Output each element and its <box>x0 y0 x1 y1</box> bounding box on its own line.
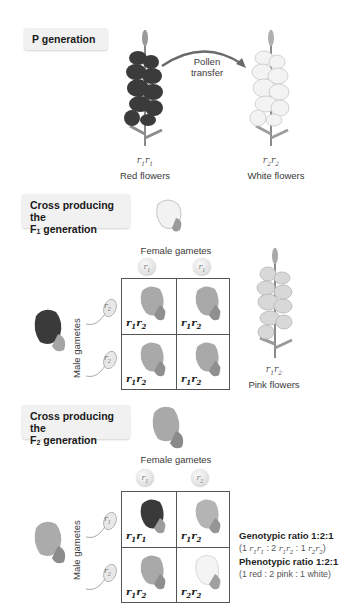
red-parent-genotype: r1r1 <box>125 155 165 167</box>
f2-header-line2: F2 generation <box>30 434 122 449</box>
f2-cell-3-genotype: r1r2 <box>126 586 146 600</box>
f2-cell-2: r1r2 <box>177 492 230 547</box>
f2-header-line1: Cross producing the <box>30 410 122 434</box>
f1-punnett-square: r1r2 r1r2 r1r2 r1r2 <box>121 278 230 390</box>
f1-male-gamete-2-allele: r2 <box>104 353 111 364</box>
f2-male-gamete-sperm-1-icon <box>84 511 118 541</box>
pink-flower-head-male-icon <box>30 518 70 566</box>
genotypic-ratio-detail: (1 r1r1 : 2 r1r2 : 1 r2r2) <box>239 543 326 555</box>
f1-cell-3-genotype: r1r2 <box>126 373 146 387</box>
f2-cell-4-genotype: r2r2 <box>181 586 201 600</box>
f2-male-gamete-1-allele: r1 <box>104 514 111 525</box>
f1-female-gametes-label: Female gametes <box>126 245 226 256</box>
f1-female-gamete-1: r1 <box>138 258 156 276</box>
red-flowers-label: Red flowers <box>110 170 180 181</box>
p-generation-header-text: P generation <box>32 33 95 45</box>
f2-cell-2-genotype: r1r2 <box>181 530 201 544</box>
genotypic-ratio-title: Genotypic ratio 1:2:1 <box>239 530 334 541</box>
f1-cell-4: r1r2 <box>177 335 230 390</box>
f2-cell-1-genotype: r1r1 <box>126 530 146 544</box>
f2-male-gametes-label: Male gametes <box>71 520 82 580</box>
phenotypic-ratio-title: Phenotypic ratio 1:2:1 <box>239 556 338 567</box>
f2-punnett-square: r1r1 r1r2 r1r2 r2r2 <box>121 491 230 603</box>
f1-male-gamete-sperm-2-icon <box>84 350 118 380</box>
f1-male-gamete-sperm-1-icon <box>84 298 118 328</box>
f2-cross-header: Cross producing the F2 generation <box>22 405 130 439</box>
f1-cross-header: Cross producing the F1 generation <box>22 194 130 228</box>
pink-flower-head-female-icon <box>148 403 186 451</box>
f2-cell-1: r1r1 <box>122 492 176 547</box>
white-flower-head-icon <box>152 196 186 236</box>
f1-female-gamete-2: r1 <box>193 258 211 276</box>
pollen-transfer-line2: transfer <box>186 67 228 78</box>
f2-male-gamete-2-allele: r2 <box>104 566 111 577</box>
f1-cell-1: r1r2 <box>122 279 176 334</box>
f2-cell-4: r2r2 <box>177 548 230 603</box>
f1-cell-1-genotype: r1r2 <box>126 317 146 331</box>
f2-cell-3: r1r2 <box>122 548 176 603</box>
red-flower-head-icon <box>30 306 70 354</box>
f2-female-gamete-1: r1 <box>136 469 154 487</box>
pink-flowers-label: Pink flowers <box>238 379 310 390</box>
f1-cell-2-genotype: r1r2 <box>181 317 201 331</box>
f2-female-gametes-label: Female gametes <box>126 454 226 465</box>
f1-header-line1: Cross producing the <box>30 199 122 223</box>
f1-cell-4-genotype: r1r2 <box>181 373 201 387</box>
pink-flower-plant-icon <box>250 244 300 362</box>
f2-female-gamete-2: r2 <box>191 469 209 487</box>
f1-male-gamete-1-allele: r2 <box>104 301 111 312</box>
phenotypic-ratio-detail: (1 red : 2 pink : 1 white) <box>239 569 331 579</box>
p-generation-header: P generation <box>24 28 108 50</box>
white-flower-plant-icon <box>244 26 298 150</box>
f1-cell-2: r1r2 <box>177 279 230 334</box>
f1-male-gametes-label: Male gametes <box>71 318 82 378</box>
white-parent-genotype: r2r2 <box>251 155 291 167</box>
pollen-transfer-label: Pollen transfer <box>186 56 228 78</box>
f2-male-gamete-sperm-2-icon <box>84 563 118 593</box>
f1-offspring-genotype: r1r2 <box>254 364 294 376</box>
f1-cell-3: r1r2 <box>122 335 176 390</box>
white-flowers-label: White flowers <box>236 170 316 181</box>
f1-header-line2: F1 generation <box>30 223 122 238</box>
pollen-transfer-line1: Pollen <box>186 56 228 67</box>
